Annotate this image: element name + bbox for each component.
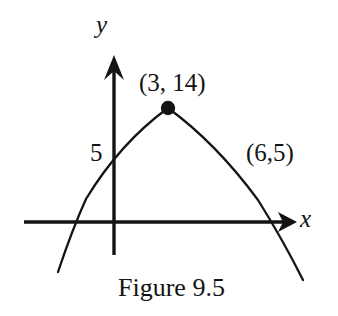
parabola-curve bbox=[58, 108, 303, 280]
figure-container: y x 5 (3, 14) (6,5) Figure 9.5 bbox=[0, 0, 338, 316]
vertex-point-label: (3, 14) bbox=[139, 70, 206, 95]
y-axis-label: y bbox=[96, 12, 107, 37]
curve-point-label: (6,5) bbox=[246, 140, 294, 165]
vertex-point-marker bbox=[161, 101, 175, 115]
y-intercept-label: 5 bbox=[90, 140, 103, 165]
figure-caption: Figure 9.5 bbox=[118, 275, 225, 301]
x-axis-label: x bbox=[300, 206, 311, 231]
